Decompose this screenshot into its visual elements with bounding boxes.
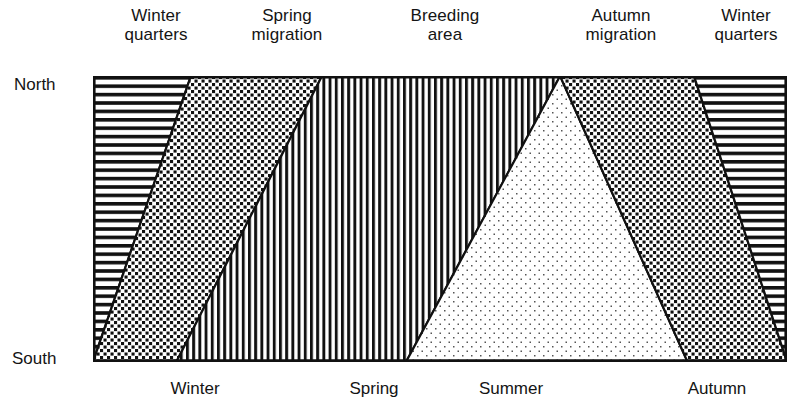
- phase-label-winter-quarters-right: Winter quarters: [688, 6, 804, 44]
- phase-label-autumn-migration: Autumn migration: [556, 6, 686, 44]
- axis-label-north: North: [14, 75, 56, 94]
- season-label-spring: Spring: [319, 379, 429, 398]
- phase-label-spring-migration: Spring migration: [222, 6, 352, 44]
- migration-plot: [93, 76, 787, 362]
- season-label-summer: Summer: [456, 379, 566, 398]
- season-label-autumn: Autumn: [662, 379, 772, 398]
- phase-label-breeding-area: Breeding area: [385, 6, 505, 44]
- phase-label-winter-quarters-left: Winter quarters: [96, 6, 216, 44]
- migration-diagram-figure: Winter quarters Spring migration Breedin…: [0, 0, 808, 416]
- season-label-winter: Winter: [140, 379, 250, 398]
- axis-label-south: South: [12, 349, 56, 368]
